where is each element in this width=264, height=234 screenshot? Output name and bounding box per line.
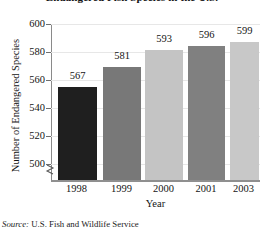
plot-area: 567 581 593 596 599 xyxy=(51,24,260,180)
bar-1999[interactable] xyxy=(103,67,141,180)
bar-2001[interactable] xyxy=(188,46,225,180)
bar-chart-figure: Endangered Fish Species in the U.S. Numb… xyxy=(0,0,264,234)
y-tick-mark xyxy=(46,136,51,137)
bar-value-label: 596 xyxy=(185,29,228,40)
x-tick-label-1998: 1998 xyxy=(54,183,99,194)
bar-2000[interactable] xyxy=(145,50,183,180)
x-axis-line xyxy=(51,180,260,182)
y-tick-mark xyxy=(46,24,51,25)
y-tick-label: 520 xyxy=(5,130,45,141)
y-tick-label: 500 xyxy=(5,158,45,169)
y-tick-label: 540 xyxy=(5,102,45,113)
bar-value-label: 593 xyxy=(142,33,186,44)
y-tick-mark xyxy=(46,108,51,109)
y-tick-label: 560 xyxy=(5,74,45,85)
bar-1998[interactable] xyxy=(58,87,97,180)
y-tick-label: 600 xyxy=(5,18,45,29)
source-note: Source: U.S. Fish and Wildlife Service xyxy=(2,219,139,229)
y-tick-mark xyxy=(46,52,51,53)
bar-value-label: 567 xyxy=(56,70,99,81)
source-note-lead: Source: xyxy=(2,219,29,229)
x-tick-label-2003: 2003 xyxy=(222,183,264,194)
y-tick-mark xyxy=(46,164,51,165)
y-tick-label: 580 xyxy=(5,46,45,57)
y-tick-mark xyxy=(46,80,51,81)
x-axis-title: Year xyxy=(51,198,260,209)
x-tick-label-2000: 2000 xyxy=(141,183,186,194)
bar-value-label: 581 xyxy=(100,50,144,61)
bar-2003[interactable] xyxy=(230,42,259,180)
x-tick-label-1999: 1999 xyxy=(99,183,144,194)
bar-value-label: 599 xyxy=(223,25,264,36)
chart-title: Endangered Fish Species in the U.S. xyxy=(0,0,264,3)
source-note-text: U.S. Fish and Wildlife Service xyxy=(29,219,139,229)
